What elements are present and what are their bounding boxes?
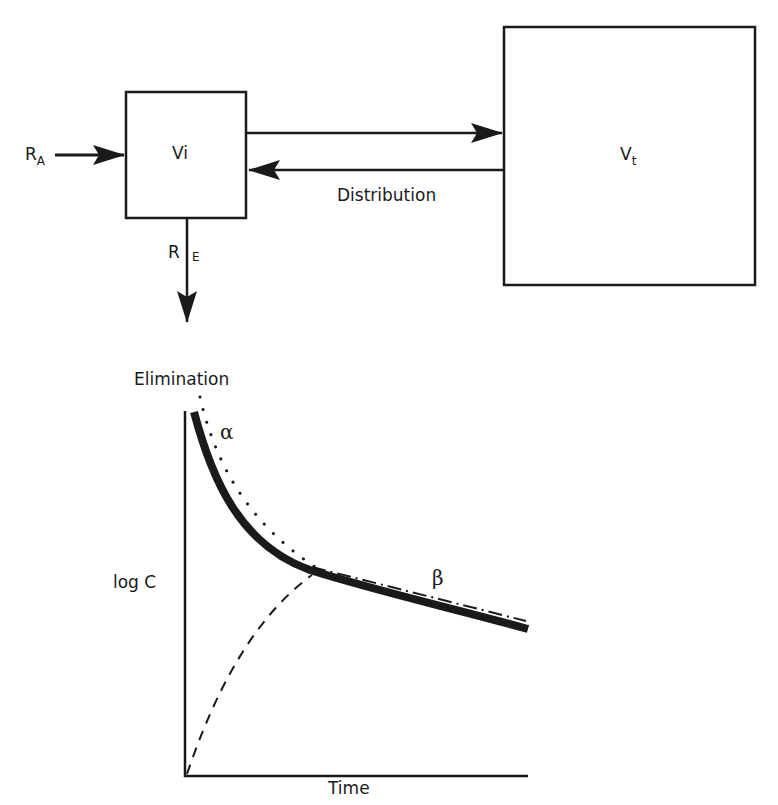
alpha-label: α: [220, 420, 234, 444]
chart-title: Elimination: [134, 369, 229, 389]
distribution-label: Distribution: [337, 185, 436, 205]
elimination-rate-main: R: [168, 242, 180, 262]
beta-label: β: [432, 566, 444, 590]
y-axis-label: log C: [113, 572, 156, 592]
peripheral-sub: t: [632, 154, 637, 168]
diagram-canvas: [0, 0, 778, 805]
peripheral-concentration-curve: [187, 575, 312, 774]
beta-text: β: [432, 566, 444, 590]
distribution-text: Distribution: [337, 185, 436, 205]
x-axis-text: Time: [328, 778, 370, 798]
peripheral-main: V: [620, 144, 632, 164]
input-rate-sub: A: [37, 154, 45, 168]
concentration-curve: [194, 412, 528, 629]
elimination-rate-sub-label: E: [192, 250, 200, 264]
elimination-rate-sub: E: [192, 250, 200, 264]
central-compartment-label: Vi: [172, 143, 188, 163]
peripheral-compartment-label: Vt: [620, 144, 636, 164]
alpha-text: α: [220, 420, 234, 444]
chart-title-text: Elimination: [134, 369, 229, 389]
input-rate-label: RA: [25, 144, 45, 164]
input-rate-main: R: [25, 144, 37, 164]
beta-phase-line: [312, 567, 526, 621]
y-axis-text: log C: [113, 572, 156, 592]
central-compartment-text: Vi: [172, 143, 188, 163]
elimination-rate-label: R: [168, 242, 180, 262]
x-axis-label: Time: [328, 778, 370, 798]
